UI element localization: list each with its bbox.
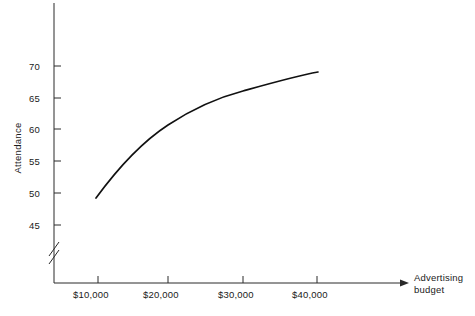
x-tick-label-10000: $10,000: [73, 289, 109, 300]
y-tick-label-50: 50: [29, 188, 40, 199]
y-tick-label-55: 55: [29, 156, 40, 167]
x-tick-label-40000: $40,000: [292, 289, 328, 300]
x-tick-label-20000: $20,000: [143, 289, 179, 300]
x-axis-title-line1: Advertising: [414, 272, 463, 284]
chart-canvas: Attendance: [0, 0, 475, 316]
y-tick-label-45: 45: [29, 220, 40, 231]
y-axis-title: Attendance: [12, 122, 23, 173]
y-tick-label-65: 65: [29, 93, 40, 104]
y-tick-label-60: 60: [29, 124, 40, 135]
x-axis-title-line2: budget: [414, 284, 444, 296]
data-curve: [96, 72, 318, 198]
attendance-advertising-chart: Attendance 70 65 60 55 50 45 $10,000 $20…: [0, 0, 475, 316]
x-axis-arrow-icon: [400, 280, 409, 287]
y-tick-label-70: 70: [29, 61, 40, 72]
x-tick-label-30000: $30,000: [218, 289, 254, 300]
